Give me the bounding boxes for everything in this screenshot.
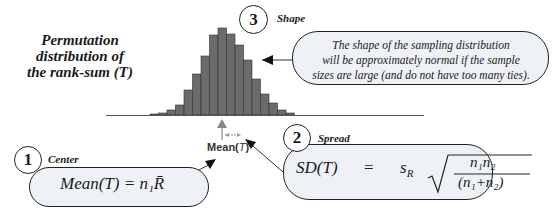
sd-formula-eq: = (364, 158, 374, 178)
histogram-bar (167, 110, 176, 115)
histogram-bar (269, 103, 278, 115)
histogram-bar (193, 74, 202, 115)
spread-double-arrow-icon (225, 133, 241, 137)
sd-s-sub: R (407, 167, 414, 179)
mean-label-close: ) (246, 141, 250, 153)
histogram-bar (201, 56, 210, 115)
histogram-bar (261, 94, 270, 115)
histogram-bar (278, 110, 287, 115)
shape-callout-text: The shape of the sampling distribution w… (296, 38, 546, 83)
sd-formula-lhs: SD(T) (296, 158, 338, 178)
center-callout-number: 1 (14, 146, 42, 174)
mean-label-text: Mean( (207, 141, 239, 153)
shape-callout-number: 3 (239, 5, 268, 34)
histogram-bar (150, 114, 159, 115)
sd-s: s (400, 158, 407, 177)
spread-callout-heading: Spread (318, 132, 350, 144)
spread-pointer-arrow-icon (245, 139, 283, 172)
center-pointer-arrow-icon (199, 159, 216, 170)
shape-text-line-2: will be approximately normal if the samp… (296, 53, 546, 68)
histogram-bar (227, 34, 236, 115)
histogram-bar (184, 90, 193, 115)
center-callout-heading: Center (48, 153, 79, 165)
shape-text-line-3: sizes are large (and do not have too man… (296, 68, 546, 83)
shape-callout-heading: Shape (277, 12, 305, 24)
histogram-bar (176, 105, 185, 115)
mean-formula: Mean(T) = n₁R̄ (60, 174, 164, 194)
histogram-bar (235, 45, 244, 115)
histogram (150, 28, 295, 115)
shape-pointer-arrow-icon (262, 55, 292, 65)
histogram-bar (286, 113, 295, 115)
histogram-bar (210, 35, 219, 115)
shape-text-line-1: The shape of the sampling distribution (296, 38, 546, 53)
sd-formula-s: sR (400, 158, 413, 179)
mean-label-var: T (239, 141, 246, 153)
mean-t-label: Mean(T) (207, 141, 249, 153)
histogram-bar (244, 60, 253, 115)
histogram-bar (252, 79, 261, 115)
histogram-bar (159, 113, 168, 115)
spread-callout-number: 2 (283, 124, 311, 152)
histogram-bar (218, 28, 227, 115)
sd-numerator: n₁n₂ (470, 154, 495, 171)
sd-denominator: (n₁+n₂) (458, 174, 504, 191)
mean-arrow-icon (217, 119, 227, 140)
